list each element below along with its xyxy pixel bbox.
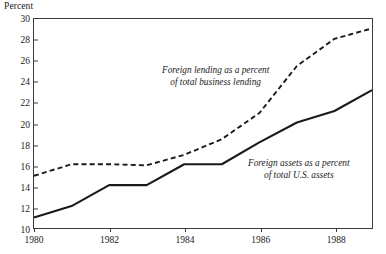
series-foreign-assets-line — [34, 90, 372, 217]
x-tick-label-1982: 1982 — [100, 235, 119, 246]
x-tick-label-1988: 1988 — [327, 235, 346, 246]
chart-page: Percent 1012141618202224262830 198019821… — [0, 0, 386, 254]
annotation-foreign-assets-line2: of total U.S. assets — [248, 170, 350, 182]
annotation-foreign-lending-line2: of total business lending — [162, 77, 269, 89]
y-tick-label-14: 14 — [21, 183, 31, 193]
series-foreign-lending-line — [34, 28, 372, 175]
x-tick-label-1984: 1984 — [176, 235, 195, 246]
annotation-foreign-lending-line1: Foreign lending as a percent — [162, 65, 269, 77]
annotation-foreign-assets: Foreign assets as a percent of total U.S… — [248, 158, 350, 181]
y-tick-label-24: 24 — [21, 77, 31, 87]
y-tick-label-16: 16 — [21, 162, 31, 172]
y-tick-label-30: 30 — [21, 14, 31, 24]
annotation-foreign-lending: Foreign lending as a percent of total bu… — [162, 65, 269, 88]
y-tick-label-10: 10 — [21, 225, 31, 235]
x-tick-mark-1982 — [110, 228, 111, 232]
y-tick-label-22: 22 — [21, 98, 31, 108]
x-tick-mark-1988 — [336, 228, 337, 232]
annotation-foreign-assets-line1: Foreign assets as a percent — [248, 158, 350, 170]
y-axis-title: Percent — [4, 0, 33, 12]
x-tick-label-1980: 1980 — [25, 235, 44, 246]
x-tick-mark-1984 — [185, 228, 186, 232]
data-lines — [34, 19, 372, 228]
x-tick-mark-1980 — [34, 228, 35, 232]
y-tick-label-28: 28 — [21, 35, 31, 45]
x-tick-label-1986: 1986 — [251, 235, 270, 246]
y-tick-label-18: 18 — [21, 141, 31, 151]
plot-area: 1012141618202224262830 19801982198419861… — [33, 18, 373, 229]
y-tick-label-20: 20 — [21, 120, 31, 130]
y-tick-label-26: 26 — [21, 56, 31, 66]
y-tick-label-12: 12 — [21, 204, 31, 214]
x-tick-mark-1986 — [261, 228, 262, 232]
